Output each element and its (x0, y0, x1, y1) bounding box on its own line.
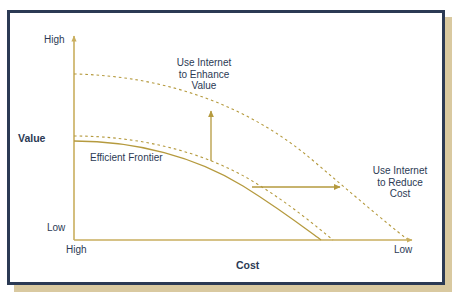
x-axis-tick-low: Low (394, 244, 412, 256)
efficient-frontier-figure: Value Cost High Low High Low Efficient F… (0, 0, 459, 298)
reduce-cost-annotation: Use Internet to Reduce Cost (362, 165, 438, 200)
y-axis-tick-low: Low (47, 222, 65, 234)
efficient-frontier-label: Efficient Frontier (90, 152, 163, 164)
enhance-value-annotation: Use Internet to Enhance Value (168, 57, 240, 92)
x-axis-tick-high: High (66, 244, 87, 256)
x-axis-title: Cost (236, 260, 259, 272)
y-axis-tick-high: High (44, 34, 65, 46)
y-axis-title: Value (18, 133, 45, 145)
